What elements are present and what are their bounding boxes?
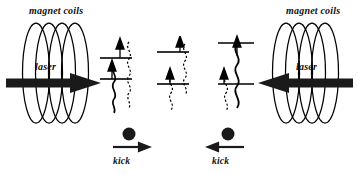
right-kick-atom: [222, 128, 235, 141]
right-magnet-coils-label: magnet coils: [286, 6, 340, 16]
level-diagram-left: [98, 36, 150, 114]
middle-dashed-wave-lower: [170, 76, 173, 110]
left-solid-wave: [113, 66, 116, 113]
right-kick-group: [202, 126, 250, 156]
left-magnet-coils-label: magnet coils: [29, 6, 83, 16]
right-laser-bar: [281, 79, 353, 88]
left-kick-arrow: [113, 143, 149, 151]
left-kick-group: [108, 126, 156, 156]
right-kick-arrow: [208, 143, 244, 151]
left-laser-beam: [6, 72, 104, 94]
left-kick-atom: [123, 128, 136, 141]
right-solid-wave: [235, 44, 238, 108]
right-laser-label: laser: [296, 62, 317, 72]
left-laser-label: laser: [35, 62, 56, 72]
level-diagram-middle: [155, 36, 207, 114]
right-laser-beam: [253, 72, 353, 94]
figure-canvas: magnet coils laser: [0, 0, 358, 174]
right-dashed-wave: [225, 76, 228, 111]
left-laser-arrowhead: [70, 73, 101, 93]
left-dashed-wave: [128, 42, 131, 108]
right-laser-arrowhead: [258, 73, 289, 93]
left-laser-bar: [6, 79, 78, 88]
middle-transition-arrows: [166, 36, 184, 84]
left-kick-label: kick: [113, 157, 130, 167]
right-kick-label: kick: [212, 157, 229, 167]
